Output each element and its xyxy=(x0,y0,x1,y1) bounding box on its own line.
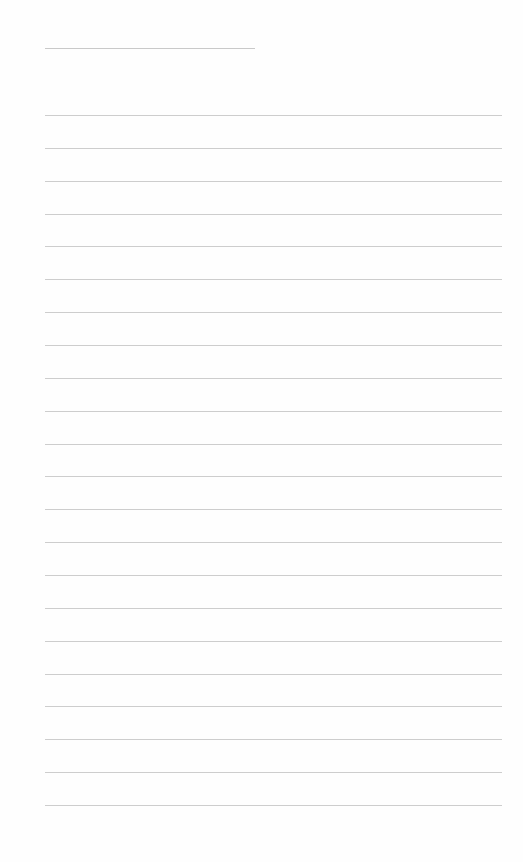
ruled-line xyxy=(45,608,502,609)
ruled-line xyxy=(45,772,502,773)
ruled-line xyxy=(45,509,502,510)
ruled-line xyxy=(45,378,502,379)
ruled-line xyxy=(45,575,502,576)
ruled-line xyxy=(45,279,502,280)
ruled-line xyxy=(45,641,502,642)
ruled-line xyxy=(45,706,502,707)
ruled-line xyxy=(45,345,502,346)
lined-paper-page xyxy=(0,0,523,862)
ruled-line xyxy=(45,476,502,477)
ruled-line xyxy=(45,312,502,313)
ruled-line xyxy=(45,805,502,806)
ruled-line xyxy=(45,214,502,215)
ruled-line xyxy=(45,411,502,412)
ruled-line xyxy=(45,148,502,149)
ruled-lines-container xyxy=(0,0,523,862)
ruled-line xyxy=(45,115,502,116)
ruled-line xyxy=(45,542,502,543)
ruled-line xyxy=(45,246,502,247)
ruled-line xyxy=(45,181,502,182)
ruled-line xyxy=(45,674,502,675)
ruled-line xyxy=(45,739,502,740)
ruled-line xyxy=(45,444,502,445)
